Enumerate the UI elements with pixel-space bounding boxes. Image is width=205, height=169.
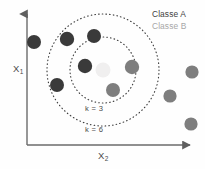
point-class-b (125, 60, 139, 74)
point-class-a (50, 78, 64, 92)
x-axis-label: X2 (98, 150, 109, 162)
point-class-b (185, 65, 198, 78)
y-axis-label: X1 (13, 63, 24, 75)
point-class-b (163, 89, 176, 102)
ring-k6-label: k = 6 (85, 125, 103, 134)
y-axis-label-subscript: 1 (20, 68, 24, 75)
query-point (96, 63, 111, 78)
point-class-b (106, 83, 120, 97)
point-class-a (78, 59, 92, 73)
x-axis-label-text: X (98, 150, 105, 161)
y-axis-label-text: X (13, 63, 20, 74)
x-axis-label-subscript: 2 (105, 155, 109, 162)
point-class-b (184, 117, 197, 130)
legend-item-classe-b: Classe B (152, 21, 186, 33)
knn-diagram: k = 3 k = 6 X1 X2 Classe A Classe B (0, 0, 205, 169)
ring-k3-label: k = 3 (85, 104, 103, 113)
point-class-a (87, 29, 101, 43)
legend-item-classe-a: Classe A (152, 9, 186, 21)
legend: Classe A Classe B (152, 9, 186, 32)
point-class-a (60, 32, 74, 46)
point-class-a (27, 35, 41, 49)
data-points (27, 29, 199, 131)
